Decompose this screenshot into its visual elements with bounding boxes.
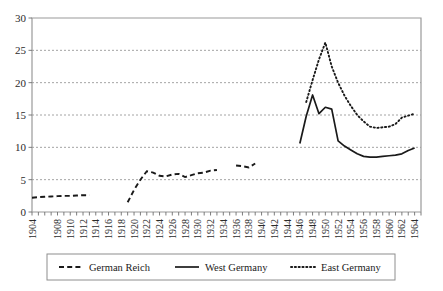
x-axis-label-1948: 1948 [307, 219, 318, 239]
y-axis-label-30: 30 [15, 12, 27, 24]
x-axis-label-1908: 1908 [52, 219, 63, 239]
x-axis-label-1918: 1918 [116, 219, 127, 239]
x-axis-label-1916: 1916 [103, 219, 114, 239]
x-axis-label-1960: 1960 [384, 219, 395, 239]
x-axis-label-1932: 1932 [205, 219, 216, 239]
x-axis-label-1950: 1950 [320, 219, 331, 239]
x-axis-label-1940: 1940 [256, 219, 267, 239]
x-axis-label-1928: 1928 [180, 219, 191, 239]
legend-label-1: West Germany [205, 262, 268, 273]
x-axis-label-1924: 1924 [154, 219, 165, 239]
x-axis-label-1926: 1926 [167, 219, 178, 239]
x-axis-label-1914: 1914 [90, 219, 101, 239]
series-german-reich-segment-0 [32, 195, 89, 198]
x-axis-label-1936: 1936 [231, 219, 242, 239]
y-axis-label-10: 10 [15, 141, 27, 153]
x-axis-label-1942: 1942 [269, 219, 280, 239]
series-german-reich-segment-1 [128, 170, 217, 202]
legend-label-0: German Reich [89, 262, 151, 273]
chart-container: 0510152025301904190819101912191419161918… [0, 0, 443, 291]
x-axis-label-1910: 1910 [65, 219, 76, 239]
x-axis-label-1930: 1930 [192, 219, 203, 239]
x-axis-label-1922: 1922 [141, 219, 152, 239]
x-axis-label-1952: 1952 [333, 219, 344, 239]
y-axis-label-20: 20 [15, 77, 27, 89]
x-axis-label-1944: 1944 [282, 219, 293, 239]
x-axis-label-1962: 1962 [396, 219, 407, 239]
x-axis-label-1946: 1946 [294, 219, 305, 239]
x-axis-label-1934: 1934 [218, 219, 229, 239]
x-axis-label-1938: 1938 [243, 219, 254, 239]
x-axis-label-1956: 1956 [358, 219, 369, 239]
y-axis-label-5: 5 [21, 174, 27, 186]
x-axis-label-1954: 1954 [345, 219, 356, 239]
y-axis-label-0: 0 [21, 206, 27, 218]
series-german-reich-segment-2 [236, 164, 255, 168]
x-axis-label-1964: 1964 [409, 219, 420, 239]
y-axis-label-25: 25 [15, 44, 27, 56]
y-axis-label-15: 15 [15, 109, 27, 121]
x-axis-label-1912: 1912 [78, 219, 89, 239]
line-chart: 0510152025301904190819101912191419161918… [0, 0, 443, 291]
x-axis-label-1904: 1904 [27, 219, 38, 239]
plot-frame [32, 18, 421, 212]
x-axis-label-1958: 1958 [371, 219, 382, 239]
x-axis-label-1920: 1920 [129, 219, 140, 239]
legend-label-2: East Germany [321, 262, 382, 273]
